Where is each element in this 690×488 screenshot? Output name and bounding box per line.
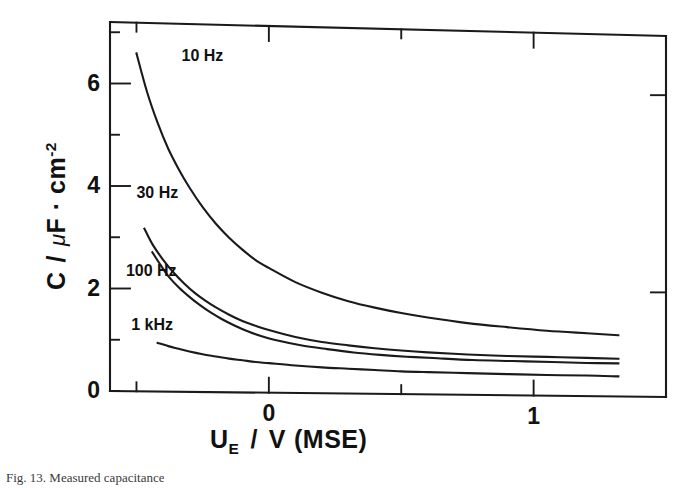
axis-ticks [110,23,666,397]
y-axis-unit-mu: μ [45,233,70,246]
y-axis-unit-main: F · cm [42,157,70,234]
curve-100-hz [152,252,618,363]
plot-area [110,22,666,391]
x-tick-label-0: 0 [254,402,284,425]
series-label-100-hz: 100 Hz [126,263,177,279]
series-label-30-hz: 30 Hz [136,185,178,201]
y-axis-symbol: C [42,271,70,290]
data-curves [136,53,618,376]
series-label-1-khz: 1 kHz [131,317,173,333]
curve-30-hz [144,229,618,359]
x-axis-symbol: U [210,425,229,453]
y-tick-label-0: 0 [74,379,100,402]
curve-1-khz [158,343,619,376]
x-axis-unit: V [269,425,286,453]
figure-caption: Fig. 13. Measured capacitance [6,470,164,488]
x-tick-label-1: 1 [519,405,549,428]
axis-frame [110,22,666,397]
x-axis-title: UE/V(MSE) [210,425,367,458]
x-axis-reference: (MSE) [294,425,367,453]
y-tick-label-2: 2 [74,277,100,300]
x-axis-separator: / [239,425,268,453]
figure-capacitance-vs-potential: C/μF · cm-2 UE/V(MSE) 02460110 Hz30 Hz10… [0,0,690,488]
series-label-10-hz: 10 Hz [181,48,223,64]
y-axis-unit-exponent: -2 [42,142,59,157]
y-tick-label-4: 4 [74,174,100,197]
curve-10-hz [136,53,618,335]
y-tick-label-6: 6 [74,72,100,95]
y-axis-title: C/μF · cm-2 [42,0,71,290]
y-axis-separator: / [42,246,70,271]
x-axis-subscript: E [229,440,240,457]
plot-svg [110,22,666,391]
